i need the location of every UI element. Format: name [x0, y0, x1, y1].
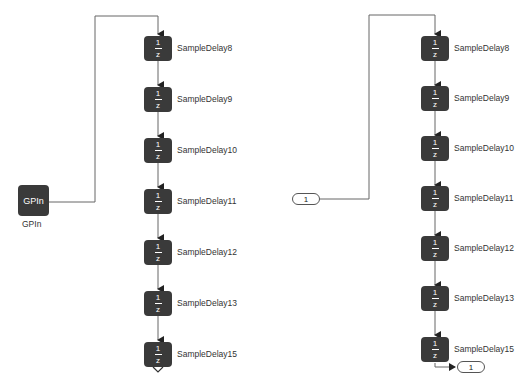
fraction-bar	[155, 48, 162, 49]
gpin-block[interactable]: GPIn	[18, 185, 49, 216]
fraction-bar	[432, 48, 439, 49]
left-sample-delay-13-label: SampleDelay13	[177, 298, 237, 308]
numerator: 1	[156, 243, 160, 251]
gpin-block-text: GPIn	[23, 196, 44, 206]
right-sample-delay-9[interactable]: 1 z	[421, 86, 449, 111]
right-sample-delay-10[interactable]: 1 z	[421, 136, 449, 161]
denominator: z	[433, 251, 437, 259]
right-sample-delay-11[interactable]: 1 z	[421, 186, 449, 211]
right-sample-delay-8[interactable]: 1 z	[421, 36, 449, 61]
left-sample-delay-11[interactable]: 1 z	[144, 189, 172, 214]
right-sample-delay-11-label: SampleDelay11	[454, 193, 513, 203]
inport-1[interactable]: 1	[292, 193, 320, 205]
denominator: z	[433, 151, 437, 159]
right-sample-delay-9-label: SampleDelay9	[454, 93, 509, 103]
right-sample-delay-10-label: SampleDelay10	[454, 143, 514, 153]
denominator: z	[156, 51, 160, 59]
left-sample-delay-9-label: SampleDelay9	[177, 94, 232, 104]
denominator: z	[156, 306, 160, 314]
right-sample-delay-13[interactable]: 1 z	[421, 286, 449, 311]
denominator: z	[433, 101, 437, 109]
numerator: 1	[156, 90, 160, 98]
left-sample-delay-11-label: SampleDelay11	[177, 196, 236, 206]
denominator: z	[433, 51, 437, 59]
numerator: 1	[433, 289, 437, 297]
numerator: 1	[433, 39, 437, 47]
fraction-bar	[155, 150, 162, 151]
left-sample-delay-12[interactable]: 1 z	[144, 240, 172, 265]
fraction-bar	[155, 99, 162, 100]
fraction-bar	[432, 148, 439, 149]
left-sample-delay-10-label: SampleDelay10	[177, 145, 237, 155]
numerator: 1	[433, 239, 437, 247]
numerator: 1	[156, 294, 160, 302]
left-sample-delay-8-label: SampleDelay8	[177, 43, 232, 53]
right-sample-delay-13-label: SampleDelay13	[454, 293, 514, 303]
numerator: 1	[156, 345, 160, 353]
left-sample-delay-9[interactable]: 1 z	[144, 87, 172, 112]
denominator: z	[433, 352, 437, 360]
left-sample-delay-15-label: SampleDelay15	[177, 349, 237, 359]
right-sample-delay-12-label: SampleDelay12	[454, 243, 514, 253]
denominator: z	[156, 204, 160, 212]
left-sample-delay-15[interactable]: 1 z	[144, 342, 172, 367]
denominator: z	[156, 102, 160, 110]
numerator: 1	[433, 340, 437, 348]
left-sample-delay-10[interactable]: 1 z	[144, 138, 172, 163]
left-sample-delay-13[interactable]: 1 z	[144, 291, 172, 316]
denominator: z	[156, 153, 160, 161]
fraction-bar	[155, 252, 162, 253]
signal-wires	[0, 0, 532, 386]
numerator: 1	[433, 139, 437, 147]
denominator: z	[433, 301, 437, 309]
denominator: z	[433, 201, 437, 209]
gpin-label: GPIn	[22, 219, 41, 229]
denominator: z	[156, 357, 160, 365]
right-sample-delay-15[interactable]: 1 z	[421, 337, 449, 362]
numerator: 1	[156, 192, 160, 200]
numerator: 1	[433, 189, 437, 197]
numerator: 1	[433, 89, 437, 97]
left-sample-delay-12-label: SampleDelay12	[177, 247, 237, 257]
denominator: z	[156, 255, 160, 263]
fraction-bar	[155, 303, 162, 304]
simulink-canvas[interactable]: GPIn GPIn 1 z SampleDelay8 1 z SampleDel…	[0, 0, 532, 386]
left-sample-delay-8[interactable]: 1 z	[144, 36, 172, 61]
fraction-bar	[155, 354, 162, 355]
right-sample-delay-12[interactable]: 1 z	[421, 236, 449, 261]
right-sample-delay-8-label: SampleDelay8	[454, 43, 509, 53]
fraction-bar	[432, 349, 439, 350]
numerator: 1	[156, 141, 160, 149]
right-sample-delay-15-label: SampleDelay15	[454, 344, 514, 354]
fraction-bar	[432, 98, 439, 99]
fraction-bar	[432, 198, 439, 199]
fraction-bar	[155, 201, 162, 202]
fraction-bar	[432, 248, 439, 249]
numerator: 1	[156, 39, 160, 47]
fraction-bar	[432, 298, 439, 299]
outport-1[interactable]: 1	[457, 361, 485, 373]
